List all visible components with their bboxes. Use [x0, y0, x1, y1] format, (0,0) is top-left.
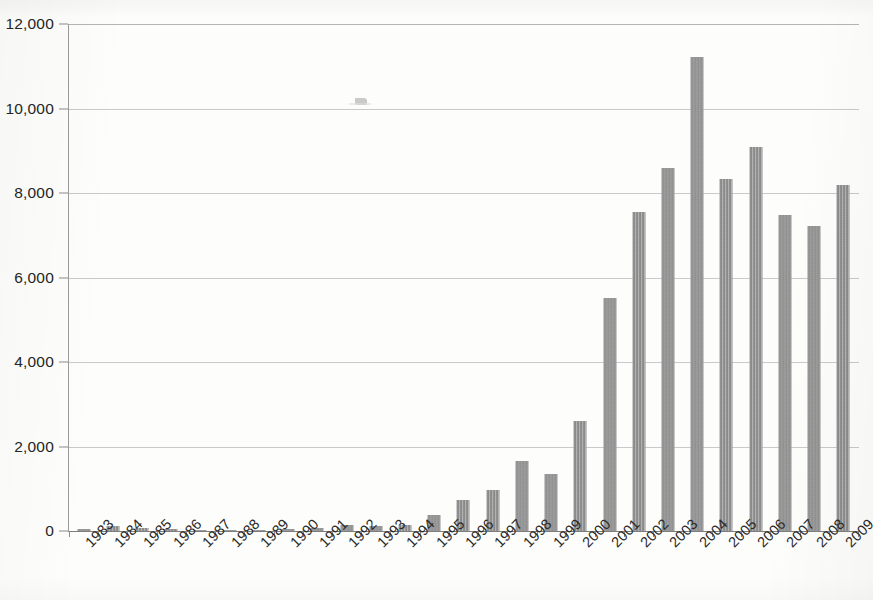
y-tick-mark — [59, 193, 68, 194]
y-tick-mark — [59, 531, 68, 532]
y-tick-label: 0 — [45, 522, 54, 540]
y-tick-mark — [59, 108, 68, 109]
y-axis: 02,0004,0006,0008,00010,00012,000 — [0, 0, 68, 531]
scan-smudge-artifact — [355, 98, 367, 105]
plot-area — [68, 24, 858, 532]
y-tick-label: 2,000 — [14, 438, 54, 456]
y-tick-mark — [59, 446, 68, 447]
x-axis-ticks — [69, 24, 858, 531]
y-tick-mark — [59, 24, 68, 25]
y-tick-label: 10,000 — [5, 100, 54, 118]
y-tick-label: 4,000 — [14, 353, 54, 371]
x-axis-labels: 1983198419851986198719881989199019911992… — [68, 531, 857, 600]
y-tick-label: 6,000 — [14, 269, 54, 287]
y-tick-label: 8,000 — [14, 184, 54, 202]
y-tick-mark — [59, 362, 68, 363]
y-tick-mark — [59, 277, 68, 278]
y-tick-label: 12,000 — [5, 15, 54, 33]
